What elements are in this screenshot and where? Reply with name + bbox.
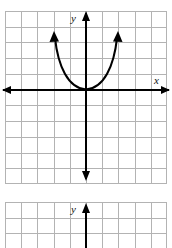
worksheet-canvas: y x bbox=[0, 0, 172, 248]
x-axis-left-arrow bbox=[2, 86, 11, 94]
y-axis-label: y bbox=[70, 12, 76, 24]
y-axis-up-arrow bbox=[82, 203, 90, 213]
parabola-graph-svg: y x bbox=[0, 0, 172, 190]
empty-graph-svg: y bbox=[0, 200, 172, 248]
x-axis-right-arrow bbox=[161, 86, 170, 94]
y-axis-label: y bbox=[70, 203, 76, 215]
parabola-right-arrow bbox=[113, 31, 123, 42]
y-axis bbox=[82, 203, 90, 248]
y-axis-up-arrow bbox=[82, 11, 90, 21]
y-axis bbox=[82, 11, 90, 181]
empty-graph: y bbox=[0, 200, 172, 248]
x-axis-label: x bbox=[153, 74, 159, 86]
parabola-graph: y x bbox=[0, 0, 172, 190]
y-axis-down-arrow bbox=[82, 171, 90, 181]
parabola-left-arrow bbox=[50, 31, 60, 42]
